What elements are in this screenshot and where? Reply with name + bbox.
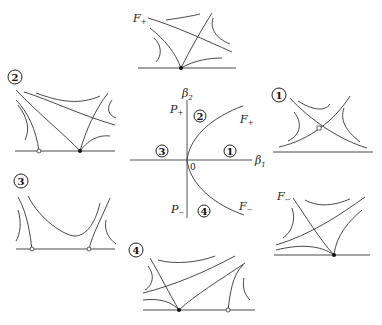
phase-portrait-F-minus: F− [274, 190, 370, 257]
bifurcation-diagram: β2 β1 0 P+ P− F+ F− 2 3 1 4 F+ 2 [0, 0, 382, 325]
svg-text:1: 1 [276, 90, 283, 101]
F-plus-label: F+ [239, 113, 254, 127]
P-plus-label: P+ [169, 103, 183, 117]
svg-text:1: 1 [227, 146, 234, 157]
svg-text:3: 3 [159, 146, 166, 157]
svg-text:4: 4 [133, 245, 140, 256]
beta2-label: β2 [181, 87, 193, 102]
region-3-marker: 3 [156, 145, 168, 157]
svg-text:4: 4 [201, 206, 208, 217]
beta1-label: β1 [254, 154, 266, 169]
phase-portrait-region-3: 3 [14, 174, 116, 251]
phase-portrait-F-plus: F+ [132, 12, 236, 70]
panel-4-marker: 4 [129, 243, 143, 257]
region-4-marker: 4 [198, 205, 210, 217]
region-2-marker: 2 [194, 110, 206, 122]
panel-3-marker: 3 [14, 174, 28, 188]
parameter-plane: β2 β1 0 P+ P− F+ F− 2 3 1 4 [130, 87, 266, 218]
panel-F-minus-label: F− [276, 190, 291, 204]
panel-F-plus-label: F+ [132, 12, 147, 26]
panel-1-marker: 1 [272, 88, 286, 102]
svg-text:2: 2 [197, 111, 204, 122]
panel-2-marker: 2 [8, 70, 22, 84]
phase-portrait-region-2: 2 [8, 70, 116, 153]
F-minus-label: F− [238, 200, 253, 214]
P-minus-label: P− [170, 203, 184, 217]
region-1-marker: 1 [224, 145, 236, 157]
origin-label: 0 [190, 162, 196, 172]
phase-portrait-region-1: 1 [272, 88, 373, 152]
svg-text:3: 3 [18, 176, 25, 187]
phase-portrait-region-4: 4 [129, 243, 255, 312]
svg-text:2: 2 [12, 72, 19, 83]
